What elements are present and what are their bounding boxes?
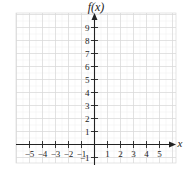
x-tick-label: −3 [51, 149, 61, 159]
y-tick-label: 3 [85, 101, 90, 111]
x-tick-label: −2 [64, 149, 74, 159]
x-tick-label: 3 [131, 149, 136, 159]
grid-border [16, 13, 176, 163]
minor-gridlines [16, 13, 176, 163]
major-gridlines [16, 13, 176, 163]
y-tick-label: 8 [85, 36, 90, 46]
y-tick-label: 9 [85, 23, 90, 33]
y-tick-label: −1 [80, 153, 90, 163]
y-axis-arrow-icon [92, 13, 98, 20]
y-tick-label: 7 [85, 49, 90, 59]
x-tick-label: 4 [144, 149, 149, 159]
x-tick-label: 1 [105, 149, 110, 159]
y-axis-label: f(x) [88, 0, 105, 14]
x-tick-label: −5 [25, 149, 35, 159]
y-tick-label: 6 [85, 62, 90, 72]
x-tick-label: 2 [118, 149, 123, 159]
y-tick-label: 5 [85, 75, 90, 85]
y-tick-label: 1 [85, 127, 90, 137]
x-tick-label: −4 [38, 149, 48, 159]
coordinate-grid-chart: −5−4−3−2−112345987654321−1 f(x) x [0, 0, 186, 172]
axes [16, 13, 176, 165]
x-tick-label: 5 [157, 149, 162, 159]
x-axis-label: x [177, 137, 183, 149]
y-tick-label: 2 [85, 114, 90, 124]
y-tick-label: 4 [85, 88, 90, 98]
